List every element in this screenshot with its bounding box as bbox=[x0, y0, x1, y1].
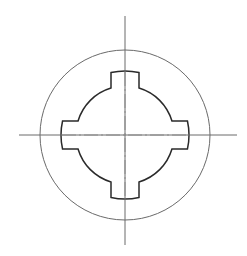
spline-section-drawing bbox=[0, 0, 247, 256]
